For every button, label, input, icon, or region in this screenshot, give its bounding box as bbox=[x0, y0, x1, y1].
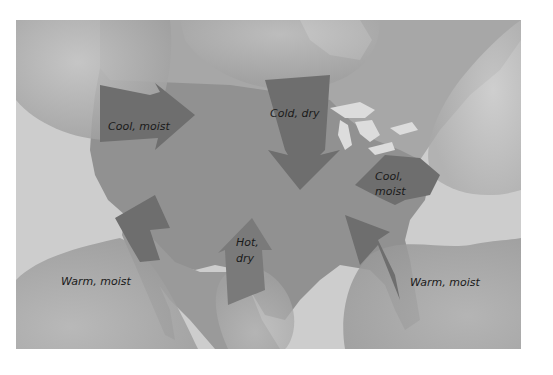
label-warm-moist-east: Warm, moist bbox=[410, 276, 480, 289]
label-cool-moist-east-2: moist bbox=[375, 185, 406, 198]
label-hot-dry-1: Hot, bbox=[236, 236, 259, 249]
label-warm-moist-west: Warm, moist bbox=[61, 275, 131, 288]
label-cool-moist-east-1: Cool, bbox=[375, 170, 403, 183]
air-mass-map: Cool, moist Cold, dry Cool, moist Warm, … bbox=[0, 0, 553, 375]
label-cool-moist-west: Cool, moist bbox=[108, 120, 170, 133]
map-frame: Cool, moist Cold, dry Cool, moist Warm, … bbox=[16, 20, 521, 349]
label-cold-dry: Cold, dry bbox=[270, 107, 320, 120]
label-hot-dry-2: dry bbox=[236, 252, 255, 265]
